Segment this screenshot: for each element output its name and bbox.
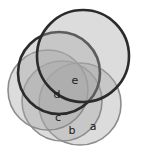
- circle-e: [37, 10, 129, 102]
- figure-root: abcde: [0, 0, 146, 150]
- overlapping-circles-diagram: abcde: [0, 0, 146, 150]
